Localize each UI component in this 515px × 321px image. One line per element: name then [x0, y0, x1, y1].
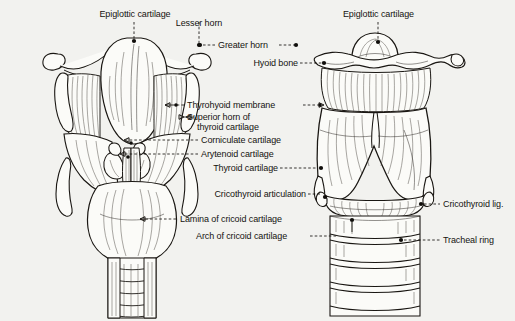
label-greater-horn: Greater horn	[218, 40, 268, 51]
anatomy-figure: Epiglottic cartilage Lesser horn Greater…	[0, 0, 515, 321]
label-lesser-horn: Lesser horn	[155, 18, 243, 29]
label-arch-of-cricoid-cartilage: Arch of cricoid cartilage	[196, 231, 287, 242]
label-corniculate-cartilage: Corniculate cartilage	[201, 135, 281, 146]
label-superior-horn-line1: Superior horn of	[187, 112, 250, 123]
label-hyoid-bone: Hyoid bone	[180, 58, 298, 69]
label-epiglottic-cartilage-right: Epiglottic cartilage	[306, 9, 451, 20]
label-thyrohyoid-membrane: Thyrohyoid membrane	[187, 100, 275, 111]
label-tracheal-ring: Tracheal ring	[443, 235, 494, 246]
label-cricothyroid-articulation: Cricothyroid articulation	[160, 189, 306, 200]
posterior-view-drawing	[43, 38, 211, 318]
label-thyroid-cartilage: Thyroid cartilage	[160, 163, 278, 174]
label-cricothyroid-lig: Cricothyroid lig.	[443, 199, 503, 210]
label-lamina-of-cricoid-cartilage: Lamina of cricoid cartilage	[180, 214, 282, 225]
label-arytenoid-cartilage: Arytenoid cartilage	[201, 149, 274, 160]
anterior-view-drawing	[314, 33, 465, 316]
label-superior-horn-line2: thyroid cartilage	[197, 122, 259, 133]
